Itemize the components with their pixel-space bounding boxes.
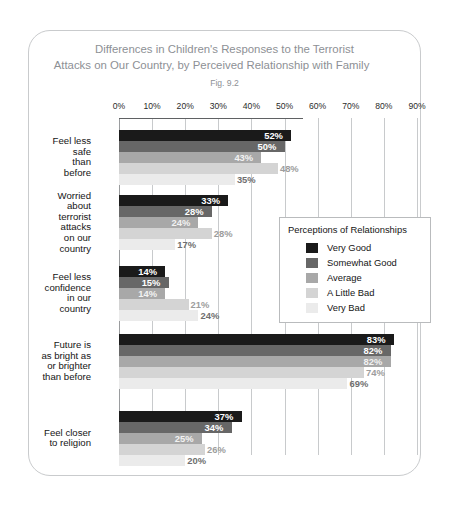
- category-label: Feel closer to religion: [21, 428, 91, 449]
- figure-card: Differences in Children's Responses to t…: [28, 30, 421, 476]
- x-axis-tick-label: 20%: [177, 101, 194, 111]
- bar-row: 82%: [91, 356, 421, 367]
- bar-value-label: 14%: [138, 288, 157, 299]
- category-label: Worried about terrorist attacks on our c…: [21, 191, 91, 255]
- bar-row: 28%: [91, 206, 421, 217]
- bar-row: 69%: [91, 378, 421, 389]
- bar-value-label: 15%: [142, 277, 161, 288]
- bar-row: 26%: [91, 444, 421, 455]
- bar-value-label: 34%: [205, 422, 224, 433]
- x-axis-tick-label: 90%: [408, 101, 425, 111]
- bar-row: 74%: [91, 367, 421, 378]
- legend-swatch-icon: [306, 243, 318, 253]
- legend-label: Somewhat Good: [327, 257, 397, 268]
- bar-value-label: 48%: [280, 163, 299, 174]
- x-axis-tick-label: 80%: [375, 101, 392, 111]
- bar-value-label: 82%: [364, 345, 383, 356]
- legend-swatch-icon: [306, 288, 318, 298]
- bar-row: 50%: [91, 141, 421, 152]
- bar-row: 33%: [91, 195, 421, 206]
- bar: [119, 334, 394, 345]
- bar-value-label: 20%: [187, 455, 206, 466]
- bar: [119, 239, 175, 250]
- bar-value-label: 82%: [364, 356, 383, 367]
- figure-number: Fig. 9.2: [29, 76, 420, 91]
- bar: [119, 378, 347, 389]
- bar-value-label: 52%: [264, 130, 283, 141]
- bar-row: 48%: [91, 163, 421, 174]
- bar-value-label: 33%: [201, 195, 220, 206]
- bar-value-label: 50%: [258, 141, 277, 152]
- bar-value-label: 28%: [185, 206, 204, 217]
- bar-value-label: 69%: [349, 378, 368, 389]
- legend-swatch-icon: [306, 258, 318, 268]
- bar-row: 82%: [91, 345, 421, 356]
- figure-title-line-1: Differences in Children's Responses to t…: [29, 41, 420, 57]
- x-axis-tick-label: 40%: [243, 101, 260, 111]
- bar-row: 20%: [91, 455, 421, 466]
- bar-value-label: 24%: [200, 310, 219, 321]
- legend-entry[interactable]: Average: [288, 270, 422, 285]
- bar-row: 34%: [91, 422, 421, 433]
- bar: [119, 356, 391, 367]
- bar-row: 43%: [91, 152, 421, 163]
- bar-value-label: 28%: [214, 228, 233, 239]
- legend-entry[interactable]: Very Good: [288, 240, 422, 255]
- legend-entry[interactable]: Very Bad: [288, 300, 422, 315]
- legend-label: A Little Bad: [327, 287, 374, 298]
- legend-entry[interactable]: Somewhat Good: [288, 255, 422, 270]
- category-label: Feel less safe than before: [21, 136, 91, 178]
- bar: [119, 299, 189, 310]
- bar: [119, 367, 364, 378]
- legend-label: Very Good: [327, 242, 371, 253]
- bar-row: 83%: [91, 334, 421, 345]
- bar-value-label: 24%: [171, 217, 190, 228]
- bar-value-label: 25%: [175, 433, 194, 444]
- bar-group: Feel closer to religion37%34%25%26%20%: [91, 411, 421, 466]
- legend-title: Perceptions of Relationships: [288, 224, 422, 235]
- bar-row: 25%: [91, 433, 421, 444]
- bar: [119, 345, 391, 356]
- x-axis-tick-label: 10%: [144, 101, 161, 111]
- bar: [119, 310, 198, 321]
- bar: [119, 228, 212, 239]
- category-label: Feel less confidence in our country: [21, 272, 91, 314]
- x-axis-tick-label: 70%: [342, 101, 359, 111]
- legend-swatch-icon: [306, 303, 318, 313]
- x-axis-tick-labels: 0%10%20%30%40%50%60%70%80%90%: [91, 101, 421, 115]
- bar-value-label: 21%: [191, 299, 210, 310]
- figure-title-block: Differences in Children's Responses to t…: [29, 41, 420, 91]
- bar-value-label: 26%: [207, 444, 226, 455]
- figure-title-line-2: Attacks on Our Country, by Perceived Rel…: [3, 57, 420, 73]
- bar: [119, 444, 205, 455]
- bar-value-label: 43%: [234, 152, 253, 163]
- x-axis-tick-label: 60%: [309, 101, 326, 111]
- legend-label: Very Bad: [327, 302, 365, 313]
- bar-row: 37%: [91, 411, 421, 422]
- x-axis-tick-label: 0%: [113, 101, 125, 111]
- category-label: Future is as bright as or brighter than …: [21, 340, 91, 382]
- bar-value-label: 37%: [215, 411, 234, 422]
- bar-value-label: 74%: [366, 367, 385, 378]
- bar: [119, 455, 185, 466]
- legend-entry[interactable]: A Little Bad: [288, 285, 422, 300]
- bar-row: 35%: [91, 174, 421, 185]
- bar: [119, 174, 235, 185]
- bar-value-label: 35%: [237, 174, 256, 185]
- chart-legend: Perceptions of Relationships Very GoodSo…: [279, 217, 431, 323]
- legend-label: Average: [327, 272, 362, 283]
- bar: [119, 163, 278, 174]
- bar-group: Feel less safe than before52%50%43%48%35…: [91, 130, 421, 185]
- bar-row: 52%: [91, 130, 421, 141]
- legend-swatch-icon: [306, 273, 318, 283]
- legend-entries: Very GoodSomewhat GoodAverageA Little Ba…: [288, 240, 422, 315]
- x-axis-tick-label: 30%: [210, 101, 227, 111]
- bar-value-label: 14%: [138, 266, 157, 277]
- bar-value-label: 17%: [177, 239, 196, 250]
- x-axis-tick-label: 50%: [276, 101, 293, 111]
- bar-value-label: 83%: [367, 334, 386, 345]
- bar-group: Future is as bright as or brighter than …: [91, 334, 421, 389]
